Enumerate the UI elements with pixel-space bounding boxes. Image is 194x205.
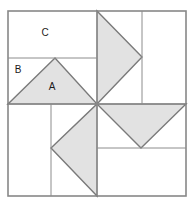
pinwheel-quilt-block-diagram: C B A	[0, 0, 194, 205]
quilt-block-canvas: C B A	[0, 0, 194, 205]
label-b: B	[15, 64, 22, 75]
label-a: A	[49, 81, 56, 92]
label-c: C	[41, 27, 48, 38]
